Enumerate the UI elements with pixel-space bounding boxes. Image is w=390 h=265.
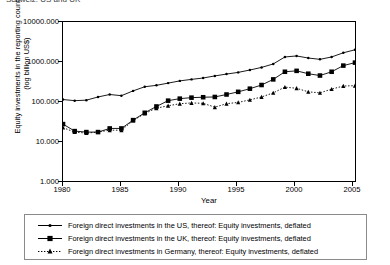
x-tick-label: 1980 bbox=[42, 185, 82, 194]
x-tick-label: 1990 bbox=[158, 185, 198, 194]
line-solid-dot-marker bbox=[37, 220, 63, 231]
x-tick-mark bbox=[120, 182, 121, 186]
legend-item-germany[interactable]: Foreign direct investments in Germany, t… bbox=[25, 245, 366, 258]
x-tick-label: 1985 bbox=[100, 185, 140, 194]
legend-label: Foreign direct investments in the US, th… bbox=[68, 221, 311, 230]
line-solid-square-marker bbox=[37, 233, 63, 244]
x-tick-label: 2000 bbox=[274, 185, 314, 194]
line-dotted-triangle-marker bbox=[37, 246, 63, 257]
chart-page: Schweiz: US and UK Equity investments in… bbox=[0, 0, 390, 265]
x-tick-mark bbox=[62, 182, 63, 186]
x-tick-mark bbox=[294, 182, 295, 186]
x-tick-mark bbox=[236, 182, 237, 186]
legend: Foreign direct investments in the US, th… bbox=[24, 214, 367, 260]
legend-label: Foreign direct investments in Germany, t… bbox=[68, 247, 318, 256]
x-tick-label: 2005 bbox=[332, 185, 372, 194]
legend-item-uk[interactable]: Foreign direct investments in the UK, th… bbox=[25, 232, 366, 245]
x-tick-mark bbox=[352, 182, 353, 186]
legend-item-us[interactable]: Foreign direct investments in the US, th… bbox=[25, 219, 366, 232]
legend-label: Foreign direct investments in the UK, th… bbox=[68, 234, 311, 243]
x-tick-mark bbox=[178, 182, 179, 186]
x-axis-label: Year bbox=[62, 196, 356, 205]
x-tick-label: 1995 bbox=[216, 185, 256, 194]
